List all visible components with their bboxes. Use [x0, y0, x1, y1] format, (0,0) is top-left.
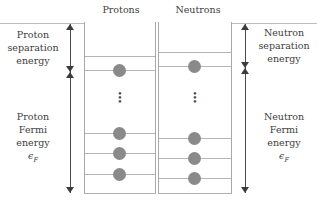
proton-separation-energy-arrow — [66, 24, 75, 72]
proton-fermi-energy-arrow — [66, 72, 75, 193]
label-line-2: Fermi energy — [252, 123, 316, 149]
neutron-well-right-wall — [231, 22, 232, 194]
neutron-separation-energy-label: Neutron separation energy — [254, 26, 314, 65]
proton-well-bottom — [84, 193, 156, 194]
neutron-fermi-symbol: ϵF — [252, 149, 316, 167]
label-line-3: energy — [4, 54, 62, 67]
label-line-2: separation — [4, 41, 62, 54]
neutron-well-left-wall — [158, 22, 159, 194]
ellipsis-dot: • — [190, 100, 200, 104]
label-line-1: Neutron — [254, 26, 314, 39]
neutron-nucleon-4 — [188, 172, 201, 185]
neutron-separation-energy-arrow — [241, 24, 250, 68]
proton-nucleon-2 — [113, 127, 126, 140]
proton-nucleon-1 — [113, 64, 126, 77]
proton-nucleon-3 — [113, 147, 126, 160]
proton-level-0 — [85, 56, 155, 57]
label-line-2: Fermi energy — [2, 123, 64, 149]
label-line-1: Proton — [2, 110, 64, 123]
label-line-1: Neutron — [252, 110, 316, 123]
proton-nucleon-4 — [113, 168, 126, 181]
neutron-nucleon-1 — [188, 60, 201, 73]
label-line-1: Proton — [4, 28, 62, 41]
neutron-well-bottom — [158, 193, 232, 194]
proton-separation-energy-label: Proton separation energy — [4, 28, 62, 67]
neutrons-column-header: Neutrons — [168, 4, 228, 15]
neutron-fermi-energy-label: Neutron Fermi energy ϵF — [252, 110, 316, 167]
neutron-nucleon-3 — [188, 152, 201, 165]
ellipsis-dot: • — [115, 100, 125, 104]
neutron-level-0 — [159, 52, 231, 53]
neutron-fermi-energy-arrow — [241, 68, 250, 193]
energy-level-diagram: Protons Neutrons • • • • • • — [0, 0, 317, 205]
proton-fermi-energy-label: Proton Fermi energy ϵF — [2, 110, 64, 167]
neutron-levels-ellipsis: • • • — [190, 92, 200, 104]
neutron-nucleon-2 — [188, 132, 201, 145]
proton-fermi-symbol: ϵF — [2, 149, 64, 167]
proton-well-left-wall — [84, 22, 85, 194]
label-line-3: energy — [254, 52, 314, 65]
epsilon-subscript: F — [33, 156, 38, 164]
proton-levels-ellipsis: • • • — [115, 92, 125, 104]
epsilon-subscript: F — [284, 156, 289, 164]
protons-column-header: Protons — [95, 4, 147, 15]
proton-well-right-wall — [155, 22, 156, 194]
label-line-2: separation — [254, 39, 314, 52]
